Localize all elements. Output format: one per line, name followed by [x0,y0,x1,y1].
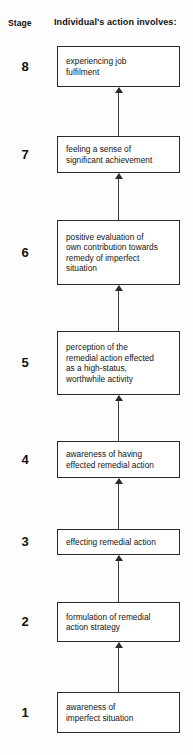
stage-box-text: feeling a sense of significant achieveme… [58,144,152,165]
arrow-head [115,478,123,484]
stage-number: 3 [10,534,40,549]
stage-number: 1 [10,705,40,720]
stage-box-text: effecting remedial action [58,537,156,548]
stage-box: feeling a sense of significant achieveme… [57,136,180,173]
arrow-head [115,642,123,648]
stage-number: 2 [10,614,40,629]
arrow-head [115,395,123,401]
arrow-shaft [118,400,119,441]
arrow-head [115,555,123,561]
stage-box: formulation of remedial action strategy [57,602,180,642]
stage-box-text: experiencing job fulfilment [58,56,126,77]
stage-number: 6 [10,245,40,260]
stage-number: 7 [10,147,40,162]
stage-box-text: awareness of imperfect situation [58,702,133,723]
arrow-shaft [118,560,119,602]
arrow-up-icon [113,285,124,331]
arrow-up-icon [113,395,124,441]
arrow-head [115,87,123,93]
arrow-head [115,173,123,179]
stage-flow-diagram: Stage Individual's action involves: expe… [0,0,193,755]
stage-box-text: formulation of remedial action strategy [58,612,150,633]
arrow-up-icon [113,642,124,692]
stage-number: 4 [10,452,40,467]
stage-box: awareness of imperfect situation [57,692,180,733]
stage-box-text: positive evaluation of own contribution … [58,232,158,274]
header-column-label: Individual's action involves: [54,17,177,27]
header-stage-label: Stage [8,18,32,28]
arrow-up-icon [113,555,124,602]
stage-box: experiencing job fulfilment [57,46,180,87]
stage-box: perception of the remedial action effect… [57,331,180,395]
stage-number: 5 [10,355,40,370]
stage-number: 8 [10,59,40,74]
arrow-shaft [118,483,119,529]
arrow-head [115,285,123,291]
arrow-up-icon [113,173,124,220]
arrow-up-icon [113,478,124,529]
arrow-up-icon [113,87,124,136]
arrow-shaft [118,92,119,136]
arrow-shaft [118,178,119,220]
arrow-shaft [118,290,119,331]
stage-box: awareness of having effected remedial ac… [57,441,180,478]
arrow-shaft [118,647,119,692]
stage-box: effecting remedial action [57,529,180,555]
stage-box-text: awareness of having effected remedial ac… [58,449,154,470]
stage-box: positive evaluation of own contribution … [57,220,180,285]
stage-box-text: perception of the remedial action effect… [58,342,154,384]
